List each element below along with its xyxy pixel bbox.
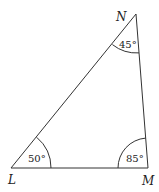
vertex-label-N: N [115,10,127,24]
vertex-label-L: L [7,173,16,187]
vertex-label-M: M [141,174,155,188]
angle-label-L: 50° [28,153,46,164]
angle-label-N: 45° [119,39,137,50]
triangle-LMN [11,14,148,168]
angle-label-M: 85° [126,153,144,164]
triangle-diagram: N L M 45° 50° 85° [0,0,159,192]
